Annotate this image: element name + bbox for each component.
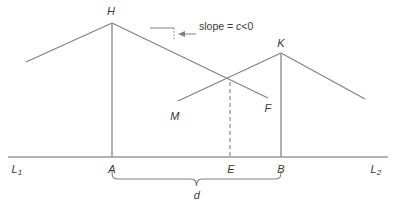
distance-brace <box>112 171 281 186</box>
label-baseline-l1: L1 <box>12 164 23 175</box>
slope-arrow-head <box>178 31 185 37</box>
right-wing-line <box>281 53 365 99</box>
label-baseline-l1-sub: 1 <box>18 168 23 177</box>
m-ascending-line <box>178 53 281 101</box>
slope-annotation-condition: <0 <box>241 20 253 32</box>
label-baseline-l2: L2 <box>371 164 382 175</box>
label-ray-m: M <box>170 111 179 122</box>
slope-annotation: slope = c<0 <box>199 21 253 32</box>
label-baseline-l2-sub: 2 <box>377 168 382 177</box>
slope-annotation-prefix: slope = <box>199 20 236 32</box>
label-peak-h: H <box>107 6 115 17</box>
label-foot-b: B <box>277 164 285 175</box>
label-peak-k: K <box>277 38 285 49</box>
left-wing-line <box>26 23 112 62</box>
label-ray-f: F <box>265 103 272 114</box>
geometry-diagram: H K M F A E B L1 L2 d slope = c<0 <box>0 0 395 206</box>
label-foot-a: A <box>108 164 116 175</box>
label-foot-e: E <box>227 164 235 175</box>
label-distance-d: d <box>194 190 200 201</box>
diagram-canvas <box>0 0 395 206</box>
